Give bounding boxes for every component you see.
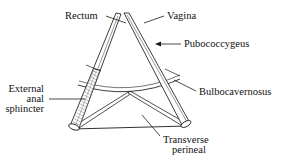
perineal-base-line bbox=[72, 126, 187, 129]
label-pubococcygeus: Pubococcygeus bbox=[184, 38, 249, 49]
label-vagina: Vagina bbox=[167, 10, 196, 21]
anatomical-diagram: Rectum Vagina Pubococcygeus Bulbocaverno… bbox=[0, 0, 282, 165]
label-transverse-perineal-line2: perineal bbox=[172, 144, 206, 155]
vagina-tube-inner-line bbox=[127, 15, 187, 122]
vagina-leader bbox=[144, 16, 164, 23]
label-transverse-perineal: Transverse perineal bbox=[163, 134, 209, 155]
diagram-canvas: Rectum Vagina Pubococcygeus Bulbocaverno… bbox=[0, 0, 282, 165]
label-external-anal-sphincter: External anal sphincter bbox=[6, 83, 45, 114]
bulbocavernosus-leader bbox=[174, 80, 196, 91]
vagina-limb-tick bbox=[165, 69, 180, 76]
label-bulbocavernosus: Bulbocavernosus bbox=[199, 86, 271, 97]
label-external-anal-sphincter-line3: sphincter bbox=[6, 103, 45, 114]
transverse-perineal-leader bbox=[142, 115, 160, 136]
label-rectum: Rectum bbox=[65, 10, 98, 21]
pubococcygeus-arrowhead bbox=[155, 42, 161, 47]
